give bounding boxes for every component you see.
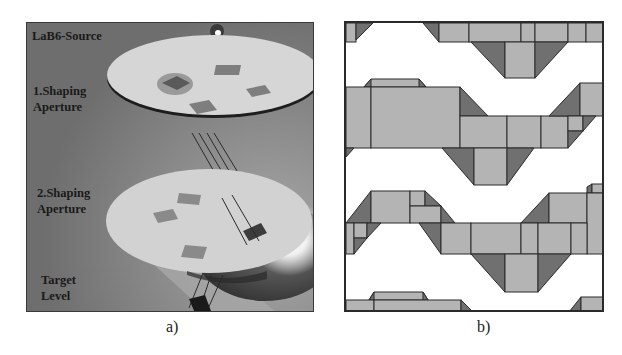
label-aperture1-line2: Aperture: [33, 100, 82, 115]
label-target-line2: Level: [41, 289, 70, 304]
shape-tiling: [346, 23, 604, 312]
caption-b: b): [477, 318, 490, 336]
label-aperture2-line2: Aperture: [37, 202, 86, 217]
electron-beam-illustration: [27, 23, 314, 312]
caption-a: a): [166, 318, 178, 336]
label-lab6-source: LaB6-Source: [32, 29, 102, 44]
label-aperture2-line1: 2.Shaping: [37, 186, 90, 201]
shaping-aperture-2: [106, 169, 312, 273]
panel-b-tiling-pattern: [344, 21, 604, 312]
label-target-line1: Target: [41, 273, 76, 288]
label-aperture1-line1: 1.Shaping: [33, 84, 86, 99]
panel-a-aperture-render: LaB6-Source 1.Shaping Aperture 2.Shaping…: [26, 22, 314, 312]
